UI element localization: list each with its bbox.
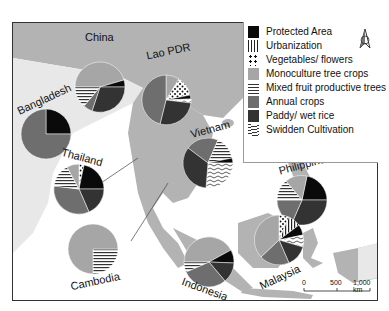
pie-malaysia bbox=[254, 215, 303, 265]
pie-china bbox=[75, 62, 125, 112]
scale-tick-0: 0 bbox=[302, 279, 306, 286]
legend-item-protected-area: Protected Area bbox=[248, 25, 376, 39]
light-gray-swatch-icon bbox=[248, 68, 259, 80]
pie-lao-pdr bbox=[142, 75, 191, 125]
label-china: China bbox=[85, 31, 114, 43]
scale-tick-1000: 1,000 km bbox=[353, 279, 377, 293]
mid-gray-swatch-icon bbox=[248, 96, 259, 108]
legend-item-annual-crops: Annual crops bbox=[248, 95, 376, 109]
pie-cambodia bbox=[68, 224, 118, 274]
horizontal-stripes-swatch-icon bbox=[248, 82, 259, 94]
legend-item-paddy: Paddy/ wet rice bbox=[248, 109, 376, 123]
north-arrow-icon bbox=[358, 28, 372, 50]
legend-item-urbanization: Urbanization bbox=[248, 39, 376, 53]
legend-item-monoculture: Monoculture tree crops bbox=[248, 67, 376, 81]
dark-gray-swatch-icon bbox=[248, 110, 259, 122]
vertical-stripes-swatch-icon bbox=[248, 40, 259, 52]
legend-item-vegetables: Vegetables/ flowers bbox=[248, 53, 376, 67]
legend-item-swidden: Swidden Cultivation bbox=[248, 123, 376, 137]
scale-tick-500: 500 bbox=[330, 279, 342, 286]
dots-swatch-icon bbox=[248, 54, 259, 66]
legend: Protected Area Urbanization Vegetables/ … bbox=[243, 22, 378, 163]
solid-black-swatch-icon bbox=[248, 26, 259, 38]
pie-vietnam bbox=[183, 138, 233, 188]
legend-item-mixed-fruit: Mixed fruit productive trees bbox=[248, 81, 376, 95]
pie-thailand bbox=[54, 164, 104, 214]
wavy-lines-swatch-icon bbox=[248, 124, 259, 136]
